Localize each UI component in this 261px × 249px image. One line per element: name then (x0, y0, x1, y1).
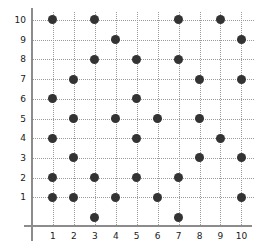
x-tick-label-3: 3 (92, 232, 98, 241)
data-point (111, 114, 120, 123)
gridline-x-3 (95, 12, 97, 225)
x-tick-label-2: 2 (71, 232, 77, 241)
y-tick-label-7: 7 (6, 75, 26, 84)
data-point (48, 94, 57, 103)
gridline-x-5 (137, 12, 139, 225)
data-point (132, 134, 141, 143)
y-tick-label-1: 1 (6, 193, 26, 202)
data-point (90, 173, 99, 182)
scatter-plot-figure: 12345678910 12345678910 (0, 0, 261, 249)
y-axis-spine (31, 8, 33, 241)
data-point (216, 15, 225, 24)
plot-area (32, 12, 254, 225)
data-point (237, 35, 246, 44)
data-point (48, 15, 57, 24)
data-point (111, 193, 120, 202)
data-point (111, 35, 120, 44)
x-tick-label-6: 6 (155, 232, 161, 241)
data-point (132, 173, 141, 182)
x-tick-label-9: 9 (218, 232, 224, 241)
data-point (132, 94, 141, 103)
data-point (90, 55, 99, 64)
data-point (216, 134, 225, 143)
data-point (69, 114, 78, 123)
y-tick-label-10: 10 (6, 15, 26, 24)
data-point (237, 75, 246, 84)
data-point (90, 15, 99, 24)
y-tick-label-8: 8 (6, 55, 26, 64)
data-point (174, 55, 183, 64)
x-axis-spine (24, 225, 252, 227)
x-tick-label-5: 5 (134, 232, 140, 241)
x-tick-label-4: 4 (113, 232, 119, 241)
data-point (195, 75, 204, 84)
data-point (69, 153, 78, 162)
data-point (69, 75, 78, 84)
x-tick-label-1: 1 (50, 232, 56, 241)
data-point (174, 173, 183, 182)
data-point (153, 114, 162, 123)
data-point (90, 213, 99, 222)
data-point (69, 193, 78, 202)
gridline-x-9 (220, 12, 222, 225)
data-point (132, 55, 141, 64)
y-tick-label-4: 4 (6, 134, 26, 143)
data-point (174, 213, 183, 222)
data-point (153, 193, 162, 202)
data-point (237, 193, 246, 202)
y-tick-label-3: 3 (6, 153, 26, 162)
data-point (48, 193, 57, 202)
x-tick-label-7: 7 (176, 232, 182, 241)
y-tick-label-2: 2 (6, 173, 26, 182)
gridline-x-7 (179, 12, 181, 225)
y-tick-label-6: 6 (6, 94, 26, 103)
y-tick-label-5: 5 (6, 114, 26, 123)
data-point (48, 173, 57, 182)
x-tick-label-8: 8 (197, 232, 203, 241)
data-point (195, 153, 204, 162)
y-tick-label-9: 9 (6, 35, 26, 44)
data-point (237, 153, 246, 162)
data-point (174, 15, 183, 24)
data-point (48, 134, 57, 143)
x-tick-label-10: 10 (236, 232, 247, 241)
data-point (195, 114, 204, 123)
